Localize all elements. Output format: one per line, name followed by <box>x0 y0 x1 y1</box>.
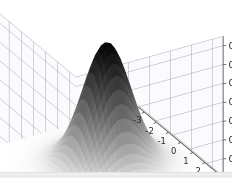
surface-plot-canvas <box>0 0 232 178</box>
window-edge-strip <box>0 172 232 178</box>
surface-plot-figure: 0.0250.0500.0750.1000.1250.1500.175-3-2-… <box>0 0 232 178</box>
